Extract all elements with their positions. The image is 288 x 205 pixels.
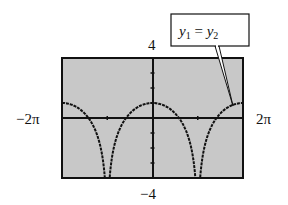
y-max-label: 4 — [148, 37, 156, 53]
callout-text: y1 = y2 — [177, 23, 218, 41]
x-max-label: 2π — [256, 111, 272, 127]
x-min-label: −2π — [16, 111, 40, 127]
y-min-label: −4 — [140, 186, 156, 202]
chart: −2π 2π 4 −4 y1 = y2 — [0, 0, 288, 205]
